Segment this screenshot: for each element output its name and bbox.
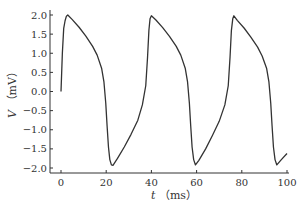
y-axis-label: V （mV） (6, 66, 19, 118)
x-axis-unit: （ms） (159, 189, 197, 202)
y-tick-label: 1.0 (31, 48, 47, 59)
plot-area: 2.01.51.00.50.0−0.5−1.0−1.5−2.0 02040608… (23, 10, 297, 189)
x-tick-label: 20 (100, 177, 113, 188)
y-tick-label: −2.0 (23, 163, 47, 174)
y-tick-label: −1.5 (23, 143, 47, 154)
x-axis-symbol: t (151, 189, 156, 202)
x-tick-label: 0 (58, 177, 64, 188)
x-axis-label: t （ms） (151, 189, 197, 202)
x-tick-label: 60 (190, 177, 203, 188)
y-tick-label: 2.0 (31, 10, 47, 21)
chart: 2.01.51.00.50.0−0.5−1.0−1.5−2.0 02040608… (0, 0, 304, 210)
y-axis-ticks: 2.01.51.00.50.0−0.5−1.0−1.5−2.0 (23, 10, 53, 174)
x-tick-label: 40 (145, 177, 158, 188)
y-tick-label: −0.5 (23, 105, 47, 116)
y-tick-label: 0.0 (31, 86, 47, 97)
y-axis-unit: （mV） (6, 66, 19, 106)
y-tick-label: −1.0 (23, 124, 47, 135)
x-tick-label: 80 (235, 177, 248, 188)
y-tick-label: 0.5 (31, 67, 47, 78)
y-axis-symbol: V (6, 109, 19, 118)
x-tick-label: 100 (277, 177, 296, 188)
voltage-line (61, 15, 287, 165)
y-tick-label: 1.5 (31, 29, 47, 40)
